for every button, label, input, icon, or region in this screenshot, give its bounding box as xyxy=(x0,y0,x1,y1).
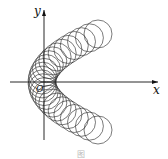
y-axis-arrow-icon xyxy=(42,10,46,16)
circle xyxy=(75,112,103,140)
figure-caption: 图 xyxy=(77,148,85,159)
circle xyxy=(84,116,112,144)
circle xyxy=(48,39,76,67)
figure: y x O 图 xyxy=(0,0,168,159)
y-axis-label: y xyxy=(34,4,41,18)
x-axis-label: x xyxy=(153,83,160,97)
origin-label: O xyxy=(36,84,43,94)
circle-family-plot xyxy=(0,0,168,159)
